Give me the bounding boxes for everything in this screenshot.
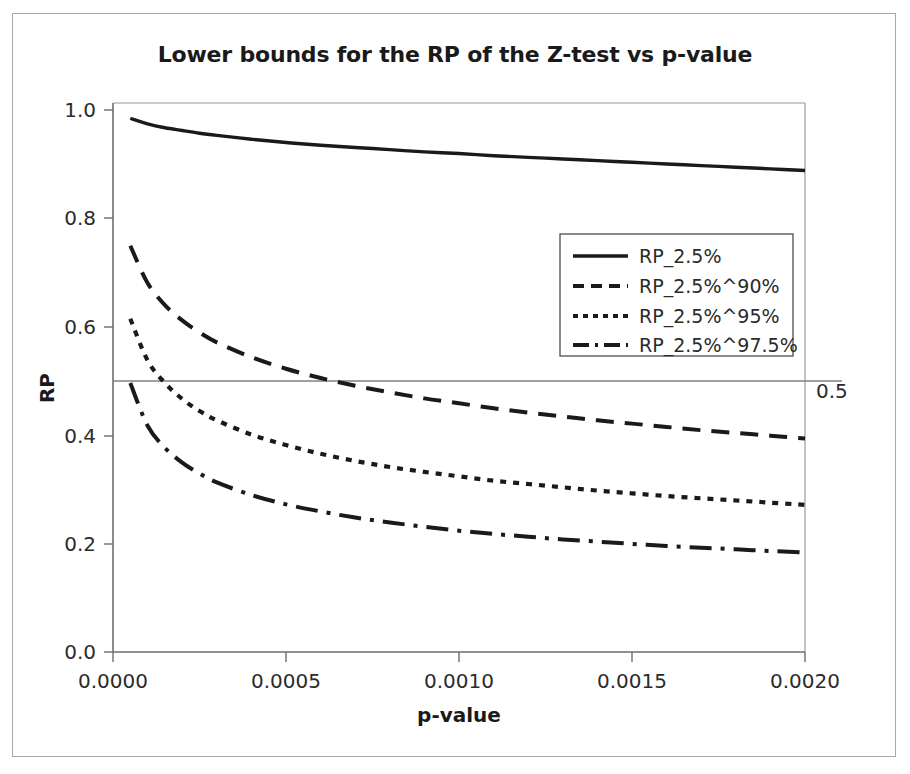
y-tick-label-0.6: 0.6 bbox=[64, 315, 96, 339]
y-tick-label-0.0: 0.0 bbox=[64, 640, 96, 664]
chart-plot: 1.0 0.8 0.6 0.4 0.2 0.0 0.0000 0.0005 0.… bbox=[0, 0, 910, 774]
series-line-0 bbox=[130, 118, 805, 170]
x-tick-label-0: 0.0000 bbox=[78, 669, 148, 693]
plot-axes bbox=[113, 103, 805, 652]
y-tick-label-0.4: 0.4 bbox=[64, 424, 96, 448]
y-tick-label-0.2: 0.2 bbox=[64, 532, 96, 556]
x-tick-label-3: 0.0015 bbox=[597, 669, 667, 693]
legend-label-0: RP_2.5% bbox=[639, 245, 721, 268]
series-line-3 bbox=[130, 383, 805, 553]
x-axis-label: p-value bbox=[417, 703, 501, 727]
legend-label-2: RP_2.5%^95% bbox=[639, 305, 780, 328]
y-tick-label-0.8: 0.8 bbox=[64, 206, 96, 230]
x-tick-label-1: 0.0005 bbox=[251, 669, 321, 693]
y-axis-label: RP bbox=[35, 373, 59, 403]
reference-line-label: 0.5 bbox=[816, 379, 848, 403]
legend: RP_2.5% RP_2.5%^90% RP_2.5%^95% RP_2.5%^… bbox=[560, 234, 798, 357]
x-tick-label-4: 0.0020 bbox=[770, 669, 840, 693]
legend-label-3: RP_2.5%^97.5% bbox=[639, 334, 798, 357]
y-tick-label-1.0: 1.0 bbox=[64, 98, 96, 122]
figure-canvas: Lower bounds for the RP of the Z-test vs… bbox=[0, 0, 910, 774]
legend-label-1: RP_2.5%^90% bbox=[639, 275, 780, 298]
x-tick-marks bbox=[113, 652, 805, 662]
x-tick-label-2: 0.0010 bbox=[424, 669, 494, 693]
y-tick-marks bbox=[104, 110, 113, 652]
